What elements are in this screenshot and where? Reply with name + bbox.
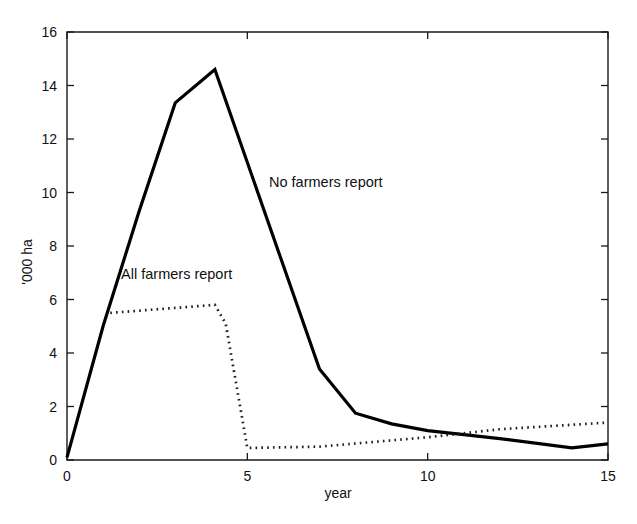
y-tick-label: 4 — [49, 345, 57, 361]
x-tick-label: 5 — [243, 468, 251, 484]
series-line-no-farmers-report — [67, 69, 608, 457]
annotation-no-farmers-report: No farmers report — [269, 174, 383, 190]
y-axis-ticks — [67, 32, 608, 460]
x-tick-label: 15 — [600, 468, 616, 484]
x-axis-tick-labels: 051015 — [63, 468, 616, 484]
y-tick-label: 10 — [41, 185, 57, 201]
axes-frame — [67, 32, 608, 460]
series-line-all-farmers-report — [110, 305, 608, 448]
y-tick-label: 16 — [41, 24, 57, 40]
y-tick-label: 6 — [49, 292, 57, 308]
y-axis-tick-labels: 0246810121416 — [41, 24, 57, 468]
y-tick-label: 12 — [41, 131, 57, 147]
y-axis-title: '000 ha — [19, 239, 35, 285]
chart-container: 0246810121416 051015 '000 ha year No far… — [0, 0, 637, 524]
x-tick-label: 0 — [63, 468, 71, 484]
annotation-all-farmers-report: All farmers report — [121, 266, 232, 282]
y-tick-label: 8 — [49, 238, 57, 254]
y-tick-label: 2 — [49, 399, 57, 415]
line-chart: 0246810121416 051015 '000 ha year No far… — [0, 0, 637, 524]
y-tick-label: 0 — [49, 452, 57, 468]
y-tick-label: 14 — [41, 78, 57, 94]
x-tick-label: 10 — [420, 468, 436, 484]
x-axis-title: year — [324, 485, 352, 501]
x-axis-ticks — [67, 32, 608, 460]
